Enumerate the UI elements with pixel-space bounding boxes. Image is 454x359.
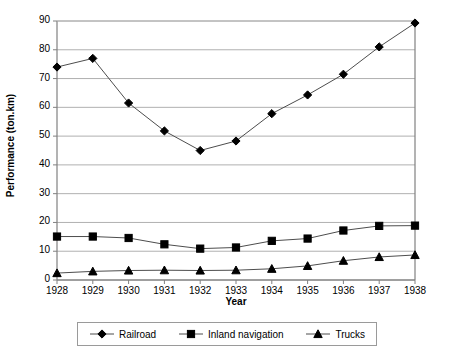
- square-marker-icon: [376, 222, 383, 229]
- legend-label: Railroad: [119, 329, 156, 340]
- x-tick-label: 1930: [109, 285, 149, 296]
- x-tick-label: 1936: [323, 285, 363, 296]
- x-tick-label: 1935: [288, 285, 328, 296]
- square-marker-icon: [187, 330, 194, 337]
- diamond-marker-icon: [304, 91, 312, 99]
- chart-container: Performance (ton.km) Year RailroadInland…: [0, 0, 454, 359]
- legend-item-railroad[interactable]: Railroad: [89, 328, 156, 340]
- square-marker-icon: [304, 235, 311, 242]
- diamond-marker-icon: [98, 330, 106, 338]
- y-tick-label: 60: [28, 100, 50, 111]
- y-tick-label: 30: [28, 187, 50, 198]
- square-marker-icon: [89, 233, 96, 240]
- square-marker-icon: [268, 237, 275, 244]
- square-marker-icon: [411, 222, 418, 229]
- diamond-marker-icon: [53, 63, 61, 71]
- legend-item-trucks[interactable]: Trucks: [305, 328, 365, 340]
- square-marker-icon: [178, 328, 204, 340]
- legend-label: Trucks: [335, 329, 365, 340]
- x-tick-label: 1938: [395, 285, 435, 296]
- gridlines: [57, 21, 415, 280]
- x-tick-label: 1929: [73, 285, 113, 296]
- series-railroad: [53, 19, 419, 155]
- square-marker-icon: [197, 245, 204, 252]
- y-tick-label: 40: [28, 158, 50, 169]
- x-axis-title: Year: [57, 296, 415, 307]
- x-tick-label: 1932: [180, 285, 220, 296]
- diamond-marker-icon: [268, 110, 276, 118]
- series-trucks: [53, 251, 419, 277]
- legend-label: Inland navigation: [208, 329, 284, 340]
- diamond-marker-icon: [339, 70, 347, 78]
- chart-legend: RailroadInland navigationTrucks: [77, 322, 377, 346]
- y-tick-label: 0: [28, 273, 50, 284]
- y-tick-label: 20: [28, 215, 50, 226]
- x-tick-label: 1934: [252, 285, 292, 296]
- legend-item-inland-navigation[interactable]: Inland navigation: [178, 328, 284, 340]
- x-tick-label: 1931: [144, 285, 184, 296]
- square-marker-icon: [125, 234, 132, 241]
- diamond-marker-icon: [89, 328, 115, 340]
- square-marker-icon: [340, 227, 347, 234]
- diamond-marker-icon: [196, 146, 204, 154]
- axis-lines: [57, 21, 415, 280]
- series-line: [57, 23, 415, 150]
- y-tick-label: 10: [28, 244, 50, 255]
- series-inland-navigation: [53, 222, 418, 252]
- diamond-marker-icon: [411, 19, 419, 27]
- y-tick-label: 90: [28, 14, 50, 25]
- x-tick-label: 1933: [216, 285, 256, 296]
- square-marker-icon: [161, 241, 168, 248]
- y-tick-label: 50: [28, 129, 50, 140]
- square-marker-icon: [53, 233, 60, 240]
- triangle-marker-icon: [305, 328, 331, 340]
- y-tick-label: 80: [28, 43, 50, 54]
- square-marker-icon: [232, 244, 239, 251]
- diamond-marker-icon: [232, 137, 240, 145]
- x-tick-label: 1928: [37, 285, 77, 296]
- x-tick-label: 1937: [359, 285, 399, 296]
- y-tick-label: 70: [28, 72, 50, 83]
